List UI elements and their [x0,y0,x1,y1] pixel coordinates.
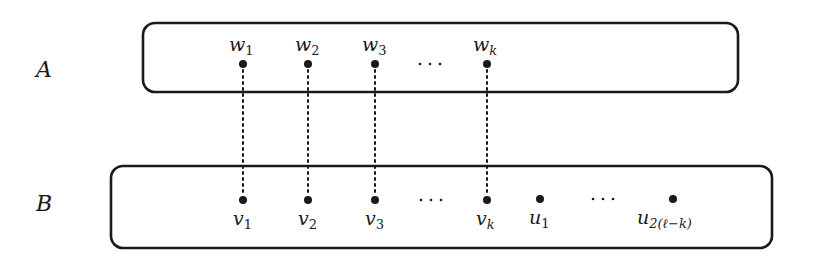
vertex-v1 [239,196,247,204]
label-v1: v1 [233,207,252,232]
label-vk: vk [476,207,495,232]
vertex-u-last [669,195,677,203]
label-v3: v3 [365,207,384,232]
label-w2: w2 [295,33,320,58]
set-b-label: B [35,191,52,216]
label-u1: u1 [529,206,550,231]
ellipsis-b-1 [420,199,443,202]
label-w3: w3 [362,33,387,58]
bipartite-matching-diagram: A B w1 w2 w3 wk v1 v2 v3 vk u1 u2(ℓ−k) [0,0,813,258]
ellipsis-a [419,63,442,66]
ellipsis-b-2 [592,198,615,201]
label-wk: wk [473,33,497,58]
vertex-w3 [371,60,379,68]
vertex-wk [483,60,491,68]
vertex-w2 [304,60,312,68]
vertex-vk [483,196,491,204]
set-b-box [111,166,772,248]
vertex-w1 [239,60,247,68]
vertex-v2 [304,196,312,204]
label-u-last: u2(ℓ−k) [637,206,692,231]
label-w1: w1 [229,33,254,58]
set-a-label: A [34,57,52,82]
label-v2: v2 [298,207,317,232]
vertex-u1 [536,195,544,203]
vertex-v3 [371,196,379,204]
